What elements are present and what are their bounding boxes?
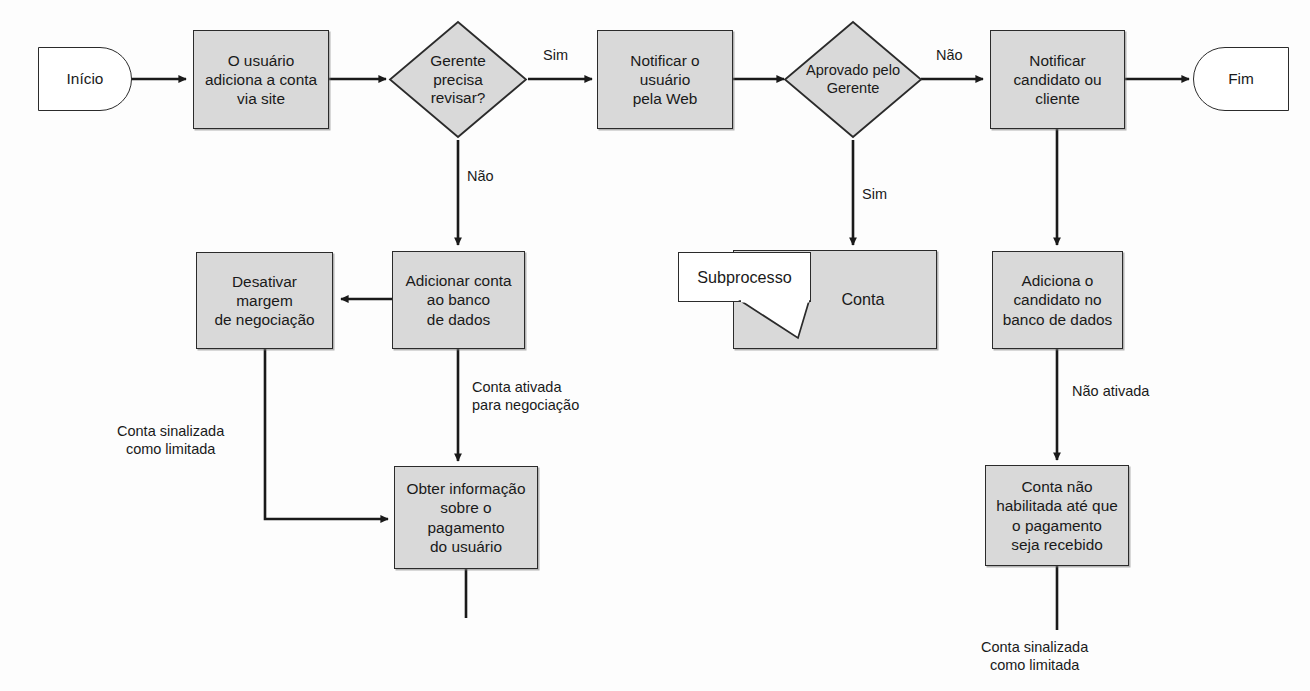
node-notify-candidate[interactable]: Notificar candidato ou cliente [990,30,1125,129]
node-add-to-db[interactable]: Adicionar conta ao banco de dados [392,251,525,349]
node-add-account[interactable]: O usuário adiciona a conta via site [193,30,329,129]
node-start-label: Início [62,69,109,88]
edge-label-flagged-limited-left: Conta sinalizada como limitada [117,422,224,458]
node-approved[interactable]: Aprovado pelo Gerente [783,20,923,140]
node-add-candidate-db-label: Adiciona o candidato no banco de dados [998,271,1118,328]
edge-label-review-no: Não [467,167,494,185]
node-notify-web[interactable]: Notificar o usuário pela Web [597,30,733,129]
node-get-payment-info-label: Obter informação sobre o pagamento do us… [402,479,531,555]
callout-subprocess[interactable]: Subprocesso [678,252,811,302]
node-manager-review-label: Gerente precisa revisar? [430,52,486,108]
node-start[interactable]: Início [38,47,132,111]
node-get-payment-info[interactable]: Obter informação sobre o pagamento do us… [394,466,538,569]
callout-subprocess-label: Subprocesso [697,268,792,287]
flowchart-canvas: Início O usuário adiciona a conta via si… [0,0,1310,691]
node-add-candidate-db[interactable]: Adiciona o candidato no banco de dados [992,251,1123,349]
node-add-to-db-label: Adicionar conta ao banco de dados [400,271,516,328]
node-add-account-label: O usuário adiciona a conta via site [200,51,322,108]
edge-label-approved-no: Não [936,46,963,64]
node-end-label: Fim [1223,69,1259,88]
edge-label-not-activated: Não ativada [1072,382,1149,400]
edge-label-review-yes: Sim [543,46,568,64]
node-manager-review[interactable]: Gerente precisa revisar? [388,20,528,140]
node-account-not-enabled-label: Conta não habilitada até que o pagamento… [991,477,1123,553]
node-notify-web-label: Notificar o usuário pela Web [625,51,704,108]
node-account-subprocess-label: Conta [836,289,889,309]
edge-label-flagged-limited-right: Conta sinalizada como limitada [981,638,1088,674]
edge-label-account-activated: Conta ativada para negociação [472,378,579,414]
node-disable-margin[interactable]: Desativar margem de negociação [196,252,333,349]
node-notify-candidate-label: Notificar candidato ou cliente [1008,51,1106,108]
node-approved-label: Aprovado pelo Gerente [806,62,900,98]
node-account-not-enabled[interactable]: Conta não habilitada até que o pagamento… [985,465,1129,566]
edge-label-approved-yes: Sim [862,185,887,203]
callout-subprocess-tail [740,300,810,344]
node-end[interactable]: Fim [1193,47,1289,111]
node-disable-margin-label: Desativar margem de negociação [209,272,319,329]
